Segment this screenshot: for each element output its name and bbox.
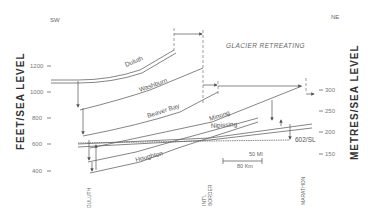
- glacier-margin-markers: [174, 28, 314, 104]
- direction-sw-label: SW: [50, 17, 60, 23]
- place-label-intl-border-group: INT'L BORDER: [201, 184, 213, 206]
- right-axis-title: METRES/SEA LEVEL: [349, 44, 360, 160]
- right-axis-ticks: 300 250 200 150: [319, 87, 336, 157]
- glacier-retreating-note: GLACIER RETREATING: [226, 42, 305, 49]
- level-drop-arrows-left: [78, 81, 96, 171]
- duluth-strandline: Duluth: [51, 50, 176, 83]
- place-label-border: BORDER: [207, 184, 213, 206]
- place-label-marathon: MARATHON: [300, 176, 306, 205]
- left-tick-1000: 1000: [30, 89, 44, 95]
- place-label-duluth: DULUTH: [86, 187, 92, 208]
- right-tick-200: 200: [325, 129, 336, 135]
- scale-bar: 50 MI 80 Km: [223, 151, 263, 169]
- left-tick-400: 400: [32, 168, 43, 174]
- washburn-strandline: Washburn: [80, 68, 203, 110]
- present-level-label: 602/SL: [295, 136, 316, 143]
- left-tick-800: 800: [32, 115, 43, 121]
- beaver-bay-strandline: Beaver Bay: [83, 92, 218, 136]
- left-axis-title: FEET/SEA LEVEL: [15, 52, 26, 150]
- right-tick-300: 300: [325, 87, 336, 93]
- left-tick-1200: 1200: [30, 63, 44, 69]
- left-tick-600: 600: [32, 141, 43, 147]
- right-tick-250: 250: [325, 108, 336, 114]
- left-axis-ticks: 1200 1000 800 600 400: [30, 63, 51, 174]
- scale-bar-km: 80 Km: [237, 163, 253, 169]
- scale-bar-miles: 50 MI: [249, 151, 263, 157]
- direction-ne-label: NE: [331, 14, 339, 20]
- lake-superior-strandline-diagram: SW NE GLACIER RETREATING FEET/SEA LEVEL …: [0, 0, 368, 220]
- level-drop-arrows-right: [272, 100, 290, 139]
- right-tick-150: 150: [325, 151, 336, 157]
- lake-label-duluth: Duluth: [124, 54, 144, 68]
